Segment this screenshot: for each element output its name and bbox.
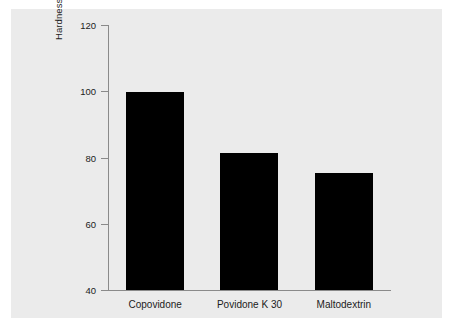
x-axis-tick-label: Povidone K 30 xyxy=(202,299,296,310)
y-axis-tick xyxy=(101,25,108,26)
y-axis-tick xyxy=(101,290,108,291)
x-axis-line xyxy=(108,290,391,291)
y-axis-tick-label: 120 xyxy=(62,20,96,31)
y-axis-tick xyxy=(101,158,108,159)
x-axis-tick-label: Maltodextrin xyxy=(297,299,391,310)
y-axis-tick-label-wrap: 60 xyxy=(62,224,96,225)
y-axis-tick-label: 100 xyxy=(62,86,96,97)
bar-slot xyxy=(202,25,296,290)
y-axis-tick-label-wrap: 100 xyxy=(62,91,96,92)
y-axis-tick-label: 80 xyxy=(62,152,96,163)
bar[interactable] xyxy=(126,92,184,290)
x-axis-tick-label: Copovidone xyxy=(108,299,202,310)
y-axis-tick-label-wrap: 80 xyxy=(62,158,96,159)
y-axis-tick-label: 60 xyxy=(62,218,96,229)
y-axis-tick-label-wrap: 40 xyxy=(62,290,96,291)
y-axis-tick xyxy=(101,91,108,92)
y-axis-tick-label-wrap: 120 xyxy=(62,25,96,26)
bar[interactable] xyxy=(315,173,373,290)
y-axis-tick-label: 40 xyxy=(62,285,96,296)
bar-slot xyxy=(297,25,391,290)
figure: Hardness, N 406080100120 CopovidonePovid… xyxy=(0,0,453,328)
y-axis-tick xyxy=(101,224,108,225)
bar-slot xyxy=(108,25,202,290)
bar[interactable] xyxy=(220,153,278,290)
plot-area xyxy=(108,25,391,290)
